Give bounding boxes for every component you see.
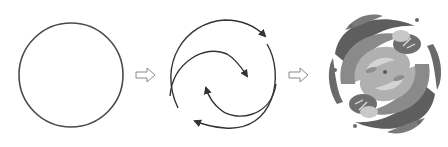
swirl-arrows-shape bbox=[165, 14, 280, 134]
right-arrow-icon bbox=[288, 67, 310, 83]
step-floral-emblem bbox=[322, 8, 448, 140]
step-plain-circle bbox=[14, 16, 128, 134]
right-arrow-icon bbox=[135, 67, 157, 83]
diagram-canvas bbox=[0, 0, 448, 147]
step-swirl-arrows bbox=[165, 14, 280, 134]
circle-shape bbox=[14, 16, 128, 134]
floral-emblem-graphic bbox=[322, 8, 448, 140]
